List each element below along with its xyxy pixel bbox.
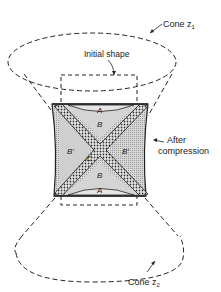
region-A-top-label: A — [96, 106, 102, 115]
cone-z1-label: Cone z1 — [163, 19, 196, 30]
after-label: After — [167, 135, 186, 145]
compression-diagram: Cone z1 Initial shape After compression … — [0, 0, 221, 292]
compression-label: compression — [158, 146, 209, 156]
region-B-top-label: B — [97, 120, 103, 129]
cone-z2-ellipse — [16, 236, 184, 282]
cone-z1-ellipse — [8, 33, 176, 91]
region-Bp-left-label: B' — [67, 147, 74, 156]
region-B-bottom-label: B — [97, 171, 103, 180]
region-Bp-right-label: B' — [122, 147, 129, 156]
initial-shape-label: Initial shape — [84, 49, 130, 59]
cone-z2-label: Cone z2 — [128, 277, 161, 288]
region-A-bottom-label: A — [96, 186, 102, 195]
region-C-label: C — [86, 154, 92, 163]
